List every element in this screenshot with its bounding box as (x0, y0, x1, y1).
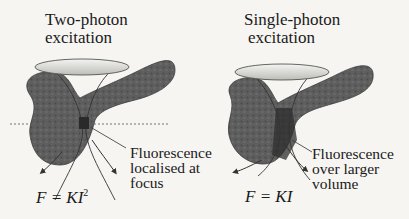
objective-lens (235, 64, 329, 80)
annotation-leader (292, 140, 312, 152)
focal-spot (79, 117, 89, 129)
single-photon-annotation: Fluorescence over larger volume (312, 146, 394, 191)
objective-lens (35, 59, 129, 75)
emission-arrow-left (235, 160, 262, 172)
annotation-leader (92, 128, 126, 148)
two-photon-equation: F = KI2 (36, 187, 88, 208)
single-photon-equation: F = KI (245, 187, 292, 207)
single-photon-title: Single-photon excitation (244, 11, 340, 47)
two-photon-title: Two-photon excitation (45, 11, 128, 47)
emission-arrow-right (92, 140, 115, 172)
two-photon-annotation: Fluorescence localised at focus (130, 145, 212, 190)
